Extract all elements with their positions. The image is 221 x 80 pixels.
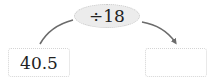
- operation-label: ÷18: [89, 6, 125, 26]
- arrow-in-curve: [40, 20, 73, 44]
- input-box: 40.5: [8, 48, 70, 77]
- operation-oval: ÷18: [74, 4, 140, 28]
- output-box[interactable]: [145, 48, 207, 77]
- input-value: 40.5: [20, 53, 58, 73]
- arrow-out-curve: [142, 22, 175, 42]
